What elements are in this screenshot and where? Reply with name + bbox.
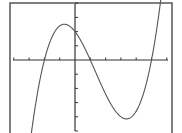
axes [13,3,168,131]
function-graph [0,0,182,133]
cubic-curve [31,0,160,133]
